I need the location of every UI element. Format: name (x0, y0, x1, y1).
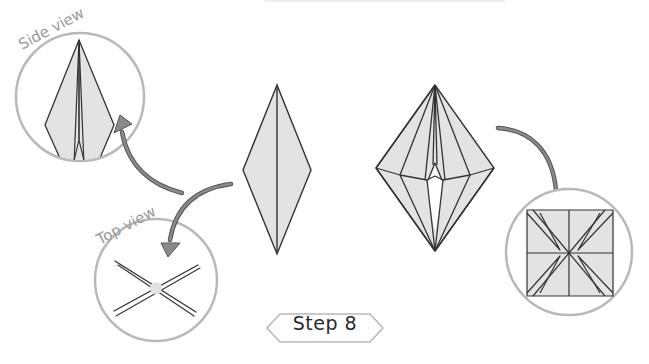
result-square-circle (506, 189, 632, 315)
opened-model (376, 85, 494, 251)
step-label: Step 8 (290, 312, 360, 334)
result-square-model (527, 210, 613, 296)
origami-diagram: Side view Top view (0, 0, 649, 364)
arrow-to-side-view (114, 115, 182, 193)
folded-diamond (243, 85, 311, 254)
